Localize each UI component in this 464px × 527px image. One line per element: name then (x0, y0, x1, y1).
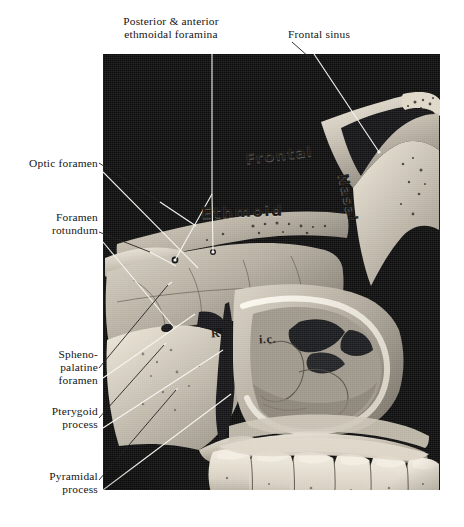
leader-lines (0, 0, 464, 527)
figure-page: Posterior & anterior ethmoidal foramina … (0, 0, 464, 527)
